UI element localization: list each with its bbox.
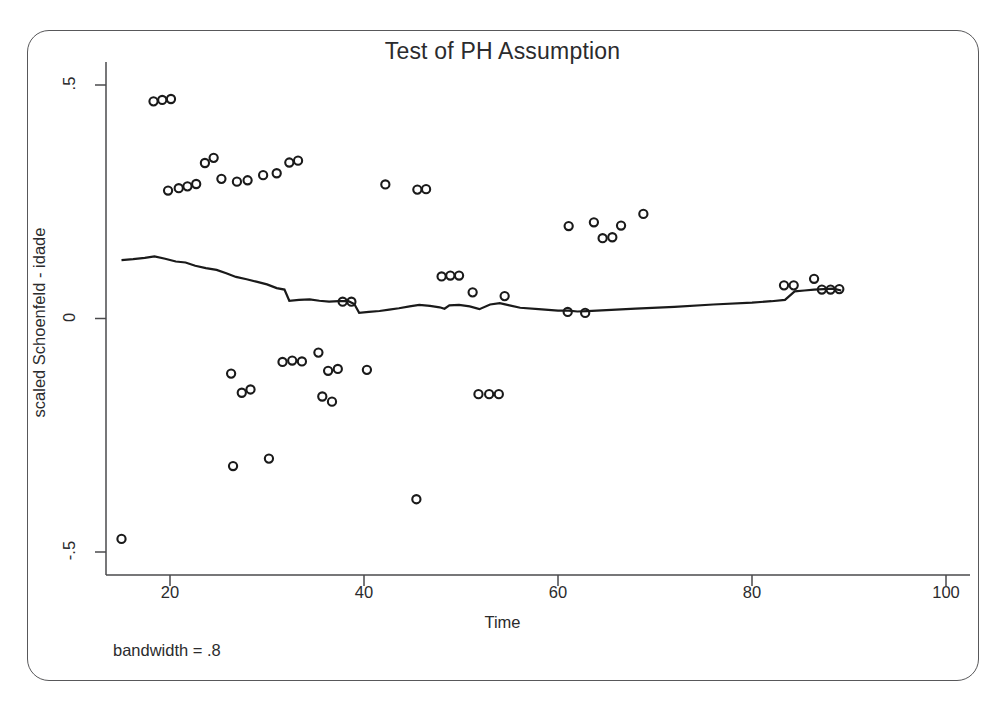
scatter-point: [564, 308, 572, 316]
scatter-point: [474, 390, 482, 398]
scatter-point: [210, 154, 218, 162]
scatter-point: [790, 281, 798, 289]
scatter-point: [201, 159, 209, 167]
scatter-point: [412, 495, 420, 503]
scatter-point: [639, 210, 647, 218]
x-tick-label: 100: [916, 583, 976, 602]
scatter-point: [117, 535, 125, 543]
y-tick-label: 0: [60, 297, 79, 337]
scatter-point: [238, 389, 246, 397]
scatter-point: [149, 97, 157, 105]
scatter-point: [192, 180, 200, 188]
scatter-point: [381, 180, 389, 188]
scatter-point: [565, 222, 573, 230]
scatter-point: [328, 398, 336, 406]
y-tick-label: -.5: [60, 531, 79, 571]
scatter-point: [265, 455, 273, 463]
scatter-point: [495, 390, 503, 398]
scatter-point: [446, 271, 454, 279]
axis-spines: [106, 62, 970, 575]
scatter-points: [117, 95, 843, 543]
scatter-point: [278, 358, 286, 366]
smooth-line-path: [122, 256, 842, 313]
x-tick-label: 40: [334, 583, 394, 602]
scatter-point: [227, 370, 235, 378]
scatter-point: [599, 234, 607, 242]
scatter-point: [324, 367, 332, 375]
scatter-point: [183, 182, 191, 190]
scatter-point: [167, 95, 175, 103]
lowess-smooth-line: [122, 256, 842, 313]
scatter-point: [158, 96, 166, 104]
scatter-point: [413, 186, 421, 194]
scatter-point: [233, 178, 241, 186]
scatter-point: [617, 221, 625, 229]
x-tick-label: 80: [722, 583, 782, 602]
scatter-point: [259, 171, 267, 179]
x-tick-label: 20: [140, 583, 200, 602]
scatter-point: [469, 288, 477, 296]
scatter-point: [246, 385, 254, 393]
scatter-point: [294, 157, 302, 165]
scatter-point: [422, 185, 430, 193]
y-tick-label: .5: [60, 64, 79, 104]
scatter-point: [780, 281, 788, 289]
y-axis-ticks: [95, 85, 106, 552]
scatter-point: [285, 158, 293, 166]
scatter-point: [810, 275, 818, 283]
scatter-point: [175, 184, 183, 192]
scatter-point: [485, 390, 493, 398]
scatter-plot: [0, 0, 1005, 709]
scatter-point: [318, 392, 326, 400]
scatter-point: [298, 357, 306, 365]
scatter-point: [501, 292, 509, 300]
scatter-point: [164, 186, 172, 194]
scatter-point: [314, 348, 322, 356]
scatter-point: [363, 366, 371, 374]
scatter-point: [244, 176, 252, 184]
scatter-point: [455, 271, 463, 279]
figure-container: Test of PH Assumption scaled Schoenfeld …: [0, 0, 1005, 709]
scatter-point: [288, 356, 296, 364]
x-tick-label: 60: [528, 583, 588, 602]
scatter-point: [229, 462, 237, 470]
scatter-point: [590, 218, 598, 226]
scatter-point: [273, 169, 281, 177]
scatter-point: [608, 233, 616, 241]
scatter-point: [217, 175, 225, 183]
scatter-point: [438, 272, 446, 280]
scatter-point: [334, 365, 342, 373]
